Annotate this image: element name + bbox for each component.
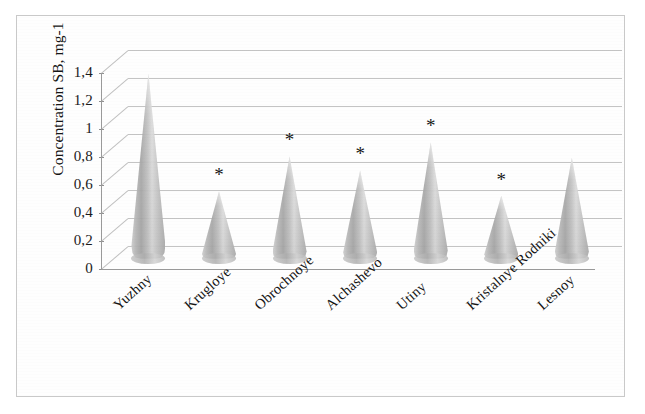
cone-base-ellipse [202,253,236,264]
y-axis-tick-label: 1 [51,120,93,137]
x-axis-label: Lesnoy [534,272,578,314]
cone-bar [273,156,307,258]
depth-edge [101,78,129,102]
cone-bar [202,191,236,258]
chart-frame: Concentration SB, mg-1 1,41,210,80,60,40… [16,15,625,397]
significance-asterisk: * [426,116,436,135]
gridline [128,134,622,135]
significance-asterisk: * [355,144,365,163]
depth-edge [101,50,129,74]
y-axis-line [101,73,102,270]
depth-edge [101,134,129,158]
cone-shading [131,74,165,259]
cone-bar [555,158,589,259]
gridline [128,50,622,51]
y-axis-tick-label: 0,6 [51,176,93,193]
cone-base-ellipse [414,253,448,264]
cone-bar [343,170,377,258]
depth-edge [101,106,129,130]
y-axis-tick-label: 0,2 [51,232,93,249]
y-axis-tick-label: 0,8 [51,148,93,165]
cone-shading [343,170,377,258]
depth-edge [101,190,129,214]
cone-shading [414,142,448,258]
cone-base-ellipse [131,253,165,264]
gridline [128,78,622,79]
cone-bar [414,142,448,258]
y-axis-tick-label: 0 [51,260,93,277]
gridline [128,162,622,163]
y-axis-tick-label: 0,4 [51,204,93,221]
cone-base-ellipse [555,253,589,264]
cone-bar [484,196,518,259]
significance-asterisk: * [497,170,507,189]
x-axis-label: Yuzhny [110,271,155,314]
y-axis-tick-label: 1,4 [51,64,93,81]
significance-asterisk: * [214,165,224,184]
depth-edge [101,246,129,270]
depth-edge [101,218,129,242]
cone-shading [555,158,589,259]
gridline [128,106,622,107]
cone-shading [484,196,518,259]
depth-edge [101,162,129,186]
y-axis-tick-label: 1,2 [51,92,93,109]
cone-bar [131,74,165,259]
x-axis-label: Krugloye [181,263,234,313]
cone-shading [202,191,236,258]
x-axis-label: Utiny [393,278,430,313]
plot-area: Concentration SB, mg-1 1,41,210,80,60,40… [17,16,626,398]
significance-asterisk: * [285,130,295,149]
cone-shading [273,156,307,258]
